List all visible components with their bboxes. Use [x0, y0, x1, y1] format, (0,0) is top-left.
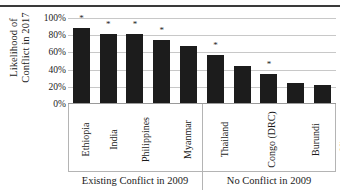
significance-star: * — [213, 41, 218, 50]
bar-slot: * — [148, 18, 175, 104]
category-label: Philippines — [140, 117, 151, 162]
category-label: Thailand — [220, 122, 231, 158]
bar[interactable] — [100, 34, 117, 104]
chart-figure: Likelihood of Conflict in 2017 100%80%60… — [0, 0, 340, 193]
category-label-slot: Ethiopia — [69, 104, 103, 171]
category-label-slot: Niger — [332, 104, 340, 171]
category-label: Burundi — [310, 123, 321, 156]
category-label-slot: Philippines — [123, 104, 168, 171]
y-tick-label: 0% — [53, 99, 66, 109]
bar[interactable] — [314, 85, 331, 104]
significance-star: * — [160, 26, 165, 35]
bar[interactable] — [153, 40, 170, 104]
category-label-slot: Burundi — [299, 104, 332, 171]
significance-star: * — [267, 60, 272, 69]
group-captions: Existing Conflict in 2009No Conflict in … — [68, 174, 336, 190]
bar[interactable] — [73, 28, 90, 104]
category-label: Congo (DRC) — [266, 111, 277, 167]
y-tick-label: 100% — [44, 13, 66, 23]
category-label-slot: India — [103, 104, 124, 171]
bar-slot: * — [122, 18, 149, 104]
bar[interactable] — [260, 74, 277, 104]
y-axis-tick-labels: 100%80%60%40%20%0% — [28, 14, 66, 106]
bar-slot: * — [95, 18, 122, 104]
bar-slot: * — [256, 18, 283, 104]
group-caption: No Conflict in 2009 — [202, 174, 336, 190]
significance-star: * — [106, 20, 111, 29]
y-tick-label: 40% — [49, 65, 66, 75]
y-tick-label: 80% — [49, 30, 66, 40]
y-tick-label: 60% — [49, 47, 66, 57]
group-caption: Existing Conflict in 2009 — [68, 174, 202, 190]
significance-star: * — [79, 14, 84, 23]
bar[interactable] — [207, 55, 224, 104]
bar-slot — [229, 18, 256, 104]
header-rule — [0, 5, 340, 7]
y-axis-title-line1: Likelihood of — [8, 0, 20, 103]
bar-slot: * — [202, 18, 229, 104]
y-tick-label: 20% — [49, 82, 66, 92]
category-label-slot: Congo (DRC) — [243, 104, 299, 171]
bar[interactable] — [234, 66, 251, 104]
category-label: India — [108, 129, 119, 150]
category-label-slot: Thailand — [207, 104, 243, 171]
bar-slot — [175, 18, 202, 104]
bar-slot — [309, 18, 336, 104]
significance-star: * — [133, 20, 138, 29]
plot-area: ****** — [68, 18, 336, 104]
bar[interactable] — [126, 34, 143, 104]
category-label: Myanmar — [182, 120, 193, 159]
bar-slot: * — [68, 18, 95, 104]
bar-series: ****** — [68, 18, 336, 104]
bar[interactable] — [287, 83, 304, 104]
bar-slot — [282, 18, 309, 104]
category-label: Ethiopia — [80, 123, 91, 157]
bar[interactable] — [180, 46, 197, 104]
